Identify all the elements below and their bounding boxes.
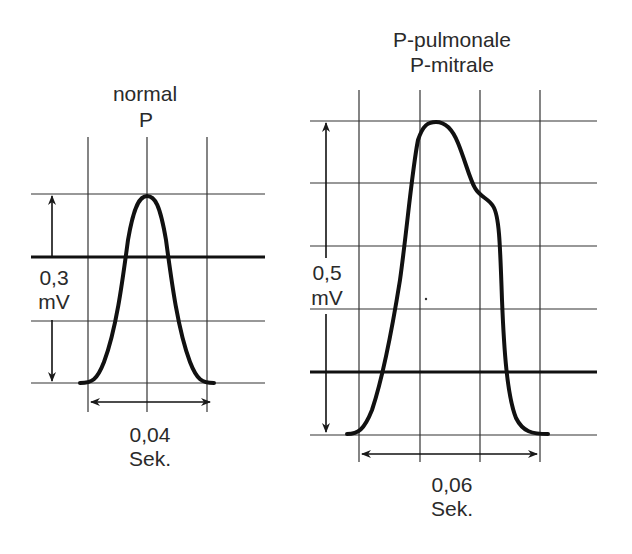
pathologic-p-panel: P-pulmonale P-mitrale 0,5 mV 0,06 Sek. xyxy=(310,28,597,520)
pathologic-p-wave xyxy=(347,122,548,434)
pathologic-title-pulmonale: P-pulmonale xyxy=(393,28,511,51)
pathologic-title-mitrale: P-mitrale xyxy=(410,53,494,76)
pathologic-duration-unit: Sek. xyxy=(431,497,473,520)
pathologic-p-grid xyxy=(310,90,597,462)
normal-duration-unit: Sek. xyxy=(129,447,171,470)
pathologic-amplitude-value: 0,5 xyxy=(312,261,341,284)
normal-amplitude-value: 0,3 xyxy=(39,266,68,289)
stray-mark xyxy=(425,298,427,300)
pathologic-amplitude-unit: mV xyxy=(311,286,343,309)
normal-amplitude-unit: mV xyxy=(38,290,70,313)
normal-duration-value: 0,04 xyxy=(130,423,171,446)
normal-title: normal xyxy=(113,82,177,105)
p-wave-diagram: normal P 0,3 mV 0,04 Sek. P-pulmonale P-… xyxy=(0,0,632,554)
normal-p-panel: normal P 0,3 mV 0,04 Sek. xyxy=(31,82,265,470)
pathologic-duration-value: 0,06 xyxy=(432,473,473,496)
normal-p-label: P xyxy=(139,108,153,131)
